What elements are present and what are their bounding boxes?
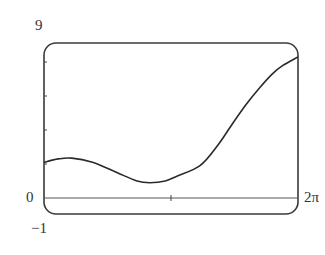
y-zero-label: 0 <box>26 190 34 205</box>
plot-frame <box>44 43 298 214</box>
axis-ticks <box>44 62 171 201</box>
x-max-label: 2π <box>304 190 319 205</box>
y-min-label: −1 <box>31 221 47 236</box>
y-max-label: 9 <box>35 18 43 33</box>
plot-area <box>0 0 325 255</box>
function-curve <box>44 57 298 183</box>
